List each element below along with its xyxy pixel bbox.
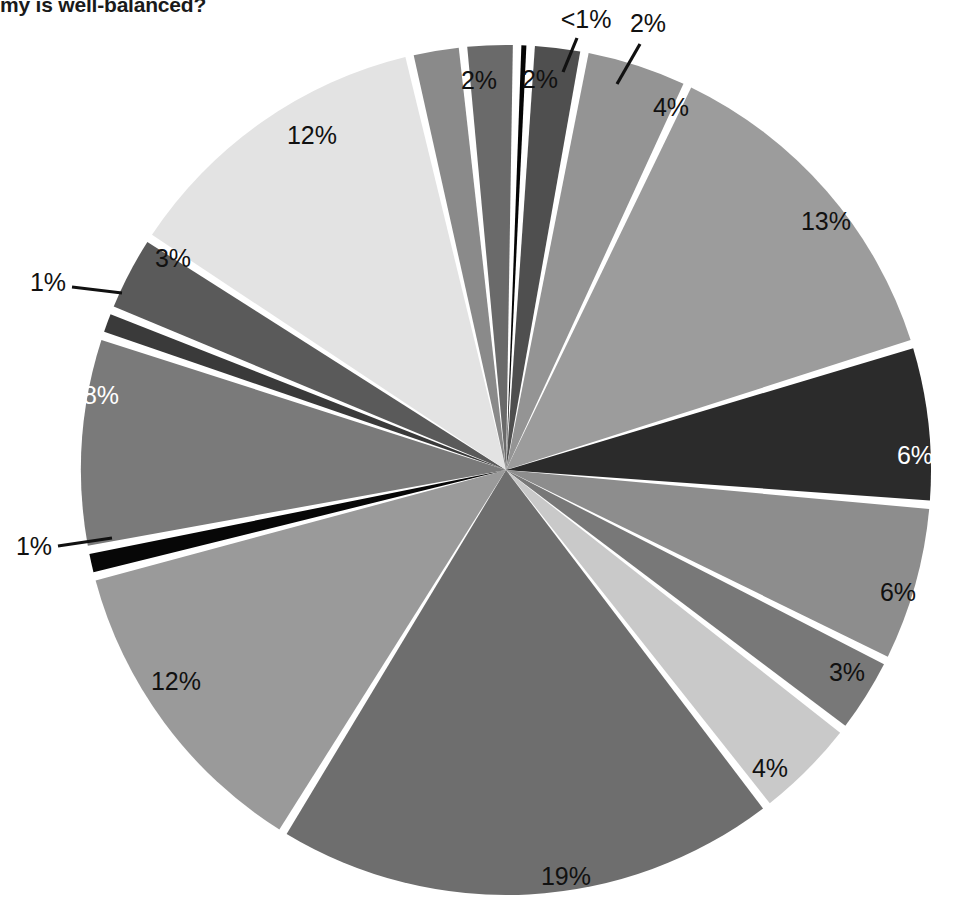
pie-slice-label: 8% [83, 381, 119, 409]
pie-slice-label: 2% [522, 65, 558, 93]
leader-line [72, 287, 122, 293]
pie-slice-label: 4% [752, 754, 788, 782]
pie-slice-label: 4% [653, 93, 689, 121]
pie-chart-canvas: <1%2%4%13%6%6%3%4%19%12%1%8%1%3%12%2%2% [0, 0, 968, 908]
pie-callout-label: 2% [630, 9, 666, 37]
pie-slice-label: 3% [155, 244, 191, 272]
pie-callout-label: <1% [561, 5, 612, 33]
pie-chart-figure: my is well-balanced? <1%2%4%13%6%6%3%4%1… [0, 0, 968, 908]
pie-slice-label: 12% [151, 667, 201, 695]
pie-slice-label: 12% [287, 121, 337, 149]
pie-slices-group [81, 45, 931, 895]
pie-slice-label: 19% [541, 862, 591, 890]
pie-callout-label: 1% [16, 532, 52, 560]
pie-callout-label: 1% [30, 268, 66, 296]
pie-slice-label: 6% [880, 578, 916, 606]
pie-slice-label: 13% [801, 207, 851, 235]
pie-slice-label: 3% [829, 658, 865, 686]
pie-slice-label: 2% [461, 66, 497, 94]
pie-slice-label: 6% [897, 441, 933, 469]
